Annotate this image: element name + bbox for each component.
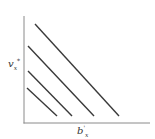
line-1 — [35, 24, 119, 116]
diagram-canvas — [0, 0, 155, 139]
x-axis-label: b'x — [77, 125, 88, 138]
line-4 — [27, 88, 57, 116]
y-axis-label: vx* — [8, 58, 20, 71]
parallel-lines — [27, 24, 119, 116]
